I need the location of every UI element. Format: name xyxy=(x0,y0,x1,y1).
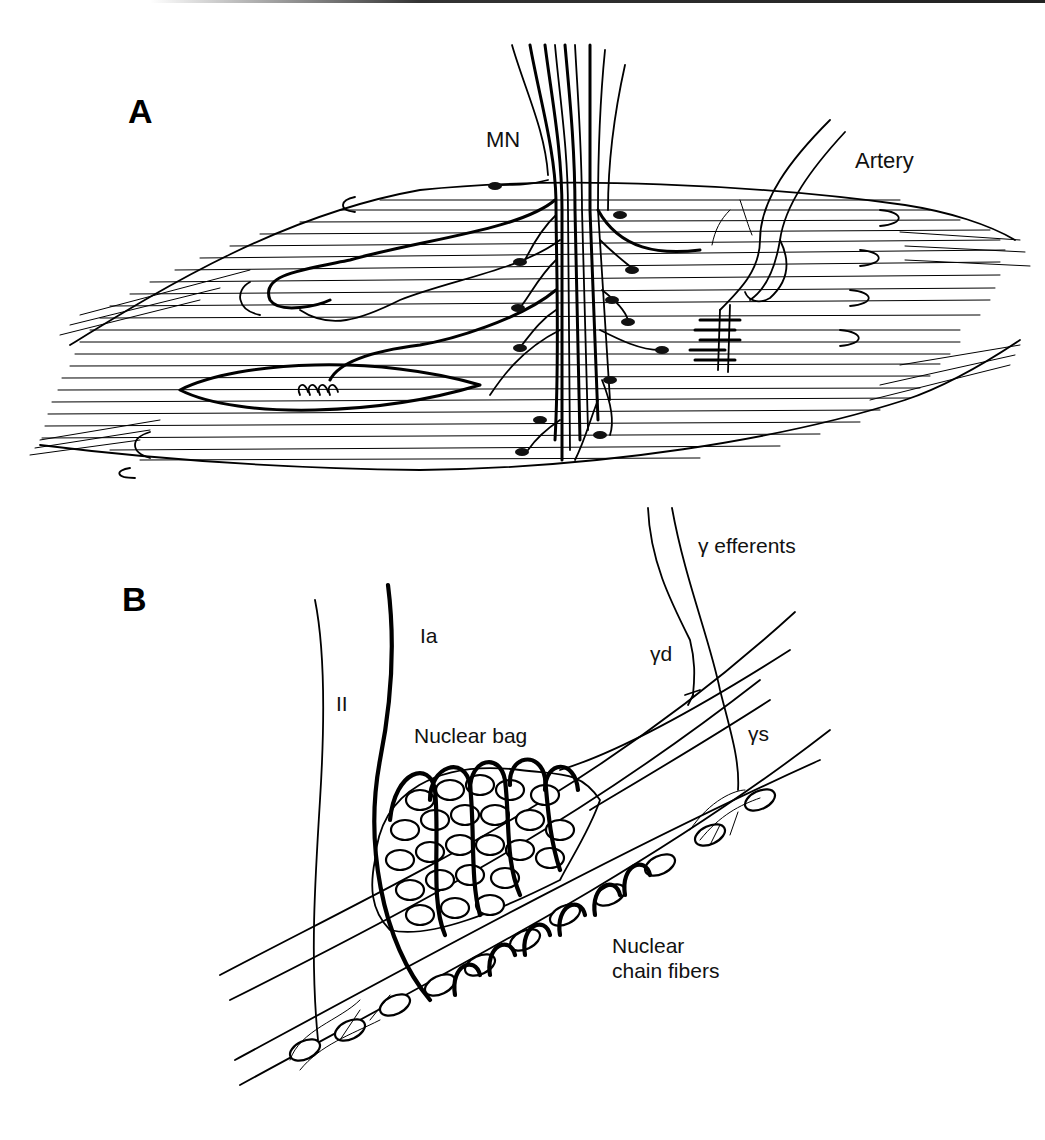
label-ia: Ia xyxy=(420,624,438,647)
label-nuclear-chain-line1: Nuclear xyxy=(612,934,684,957)
label-gamma-s: γs xyxy=(748,722,769,745)
muscle-spindle-figure: A xyxy=(0,0,1045,1140)
artery xyxy=(690,120,845,372)
label-gamma-efferents: γ efferents xyxy=(698,534,796,557)
panel-a: A xyxy=(30,45,1030,478)
muscle-belly xyxy=(30,183,1030,478)
panel-a-letter: A xyxy=(128,92,153,130)
label-nuclear-chain-line2: chain fibers xyxy=(612,959,719,982)
panel-b: B xyxy=(122,508,830,1085)
muscle-fibers xyxy=(30,200,1030,460)
label-artery: Artery xyxy=(855,148,914,173)
label-ii: II xyxy=(336,692,348,715)
panel-b-letter: B xyxy=(122,580,147,618)
label-mn: MN xyxy=(486,127,520,152)
group-ii-afferent xyxy=(314,600,323,1040)
label-gamma-d: γd xyxy=(650,642,672,665)
motor-nerve xyxy=(268,45,700,460)
nuclear-bag-fiber xyxy=(372,650,790,935)
spindle-capsule xyxy=(180,365,480,410)
label-nuclear-bag: Nuclear bag xyxy=(414,724,527,747)
gamma-d-efferent xyxy=(648,508,694,695)
spindle-endings xyxy=(299,385,338,395)
